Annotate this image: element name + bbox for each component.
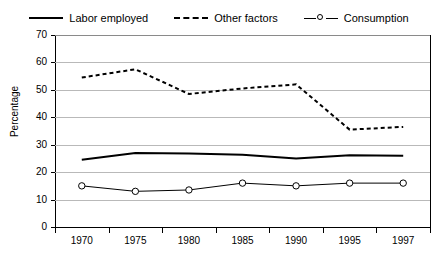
y-tick-label: 70 [25,30,47,40]
y-tick-label: 10 [25,195,47,205]
line-chart: Labor employed Other factors Consumption… [0,0,438,265]
data-point-marker [400,180,406,186]
x-tick-mark [109,228,110,233]
data-point-marker [132,188,138,194]
y-tick-label: 40 [25,112,47,122]
data-point-marker [239,180,245,186]
y-axis-title: Percentage [9,72,20,152]
legend-label-other-factors: Other factors [214,13,278,24]
series-layer [55,35,430,227]
data-point-marker [186,187,192,193]
series-line-other-factors [82,69,403,129]
x-tick-mark [55,228,56,233]
x-tick-label: 1985 [223,236,263,246]
x-tick-label: 1990 [276,236,316,246]
y-tick-label: 20 [25,167,47,177]
legend-label-labor-employed: Labor employed [69,13,148,24]
legend-item-other-factors: Other factors [174,13,278,24]
plot-right-border [430,35,431,228]
x-tick-mark [376,228,377,233]
x-tick-label: 1970 [62,236,102,246]
gridline [55,227,430,228]
series-line-labor-employed [82,153,403,160]
data-point-marker [79,183,85,189]
legend-line-circle-marker-icon [304,13,338,23]
x-tick-mark [323,228,324,233]
y-tick-label: 0 [25,222,47,232]
y-tick-label: 30 [25,140,47,150]
y-tick-label: 60 [25,57,47,67]
data-point-marker [346,180,352,186]
legend-line-dashed-icon [174,13,208,23]
legend-label-consumption: Consumption [344,13,409,24]
legend-item-labor-employed: Labor employed [29,13,148,24]
x-tick-mark [269,228,270,233]
x-tick-mark [162,228,163,233]
plot-area [55,35,430,227]
x-tick-label: 1997 [383,236,423,246]
legend-item-consumption: Consumption [304,13,409,24]
x-tick-label: 1975 [115,236,155,246]
x-tick-label: 1995 [330,236,370,246]
x-tick-label: 1980 [169,236,209,246]
x-tick-mark [430,228,431,233]
chart-legend: Labor employed Other factors Consumption [0,8,438,28]
data-point-marker [293,183,299,189]
y-tick-label: 50 [25,85,47,95]
x-tick-mark [216,228,217,233]
legend-line-solid-icon [29,13,63,23]
